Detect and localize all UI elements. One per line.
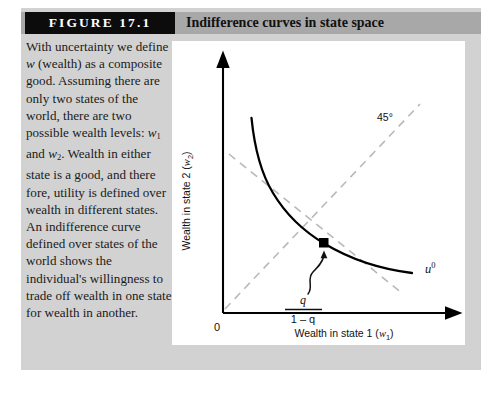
origin-label: 0 [214,321,220,333]
figure-caption-text: With uncertainty we define w (wealth) as… [26,39,172,320]
curve-label-u0: u0 [425,260,436,276]
x-axis-label: Wealth in state 1 (w1) [294,327,393,342]
slope-numerator: q [300,293,306,307]
figure-caption: With uncertainty we define w (wealth) as… [26,38,172,321]
indifference-curve-chart: 45° u0 q 1 – q 0 Wealth in state 2 (w2) [172,41,465,345]
forty-five-degree-label: 45° [377,111,393,123]
slope-callout-arrowhead [321,251,328,259]
chart-plot-area: 45° u0 q 1 – q 0 Wealth in state 2 (w2) [172,41,465,345]
slope-callout-arrow [308,256,324,294]
figure-panel: FIGURE 17.1 Indifference curves in state… [21,8,481,370]
tangency-point-marker [319,238,329,248]
figure-title: Indifference curves in state space [186,12,384,34]
y-axis-label: Wealth in state 2 (w2) [180,151,195,250]
figure-number-tag: FIGURE 17.1 [25,12,175,34]
budget-price-line [229,154,402,293]
indifference-curve [252,118,413,273]
slope-denominator: 1 – q [291,313,315,325]
figure-header-bar: FIGURE 17.1 Indifference curves in state… [21,12,481,34]
